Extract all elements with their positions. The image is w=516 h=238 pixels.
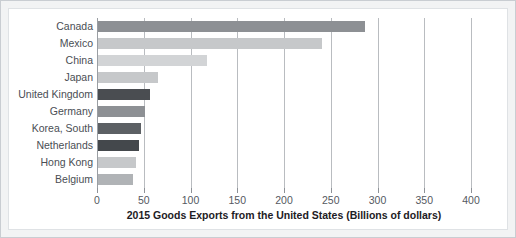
bar	[97, 21, 365, 32]
bar-row	[97, 123, 141, 134]
plot-area	[97, 18, 471, 188]
category-label: Netherlands	[1, 140, 93, 151]
bar	[97, 157, 136, 168]
x-tick-label: 250	[322, 194, 340, 206]
gridline	[424, 18, 425, 188]
bar-row	[97, 72, 158, 83]
x-tick-label: 300	[369, 194, 387, 206]
bar	[97, 89, 150, 100]
bar-row	[97, 106, 145, 117]
category-label: United Kingdom	[1, 89, 93, 100]
tick-mark	[471, 188, 472, 193]
x-tick-label: 100	[182, 194, 200, 206]
category-label: Canada	[1, 21, 93, 32]
bar-row	[97, 157, 136, 168]
x-tick-label: 200	[275, 194, 293, 206]
tick-mark	[191, 188, 192, 193]
bar-row	[97, 38, 322, 49]
bar	[97, 55, 207, 66]
x-tick-label: 350	[415, 194, 433, 206]
bar-row	[97, 21, 365, 32]
bar	[97, 174, 133, 185]
tick-mark	[284, 188, 285, 193]
gridline	[331, 18, 332, 188]
category-label: Hong Kong	[1, 157, 93, 168]
category-label: Germany	[1, 106, 93, 117]
chart-figure: CanadaMexicoChinaJapanUnited KingdomGerm…	[0, 0, 516, 238]
tick-mark	[237, 188, 238, 193]
x-axis-title: 2015 Goods Exports from the United State…	[97, 209, 471, 221]
value-axis-line	[97, 18, 98, 188]
x-tick-label: 150	[228, 194, 246, 206]
tick-mark	[97, 188, 98, 193]
bar	[97, 123, 141, 134]
bar-row	[97, 140, 139, 151]
bar	[97, 72, 158, 83]
bar	[97, 140, 139, 151]
gridline	[471, 18, 472, 188]
x-tick-label: 50	[138, 194, 150, 206]
tick-mark	[144, 188, 145, 193]
category-label: Mexico	[1, 38, 93, 49]
tick-mark	[424, 188, 425, 193]
category-axis-labels: CanadaMexicoChinaJapanUnited KingdomGerm…	[0, 18, 93, 188]
bar	[97, 106, 145, 117]
x-tick-label: 0	[94, 194, 100, 206]
bar-row	[97, 89, 150, 100]
x-tick-label: 400	[462, 194, 480, 206]
category-label: Japan	[1, 72, 93, 83]
bar-row	[97, 55, 207, 66]
category-label: Korea, South	[1, 123, 93, 134]
tick-mark	[378, 188, 379, 193]
tick-mark	[331, 188, 332, 193]
bar-row	[97, 174, 133, 185]
gridline	[378, 18, 379, 188]
category-label: China	[1, 55, 93, 66]
bar	[97, 38, 322, 49]
category-label: Belgium	[1, 174, 93, 185]
